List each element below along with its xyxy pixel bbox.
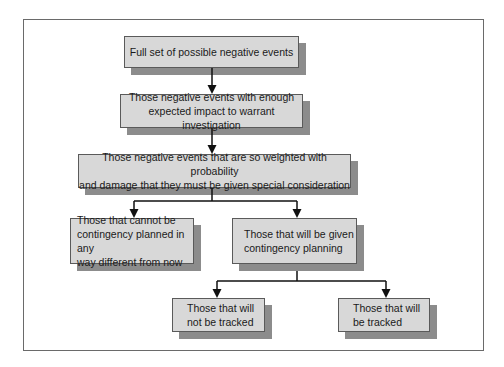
- node-label: Those that cannot be contingency planned…: [77, 213, 193, 269]
- node-full-set-negative-events: Full set of possible negative events: [124, 36, 299, 68]
- node-expected-impact-events: Those negative events with enough expect…: [120, 94, 303, 128]
- node-label: Those negative events with enough expect…: [121, 90, 302, 132]
- node-special-consideration-events: Those negative events that are so weight…: [78, 154, 351, 188]
- node-label: Those that will be given contingency pla…: [244, 227, 354, 255]
- node-label: Full set of possible negative events: [130, 45, 293, 59]
- node-contingency-planning: Those that will be given contingency pla…: [232, 218, 357, 264]
- node-label: Those negative events that are so weight…: [79, 150, 350, 192]
- node-label: Those that will not be tracked: [187, 301, 254, 329]
- node-cannot-be-planned: Those that cannot be contingency planned…: [70, 218, 194, 264]
- node-tracked: Those that will be tracked: [338, 298, 430, 332]
- node-not-tracked: Those that will not be tracked: [172, 298, 265, 332]
- node-label: Those that will be tracked: [353, 301, 420, 329]
